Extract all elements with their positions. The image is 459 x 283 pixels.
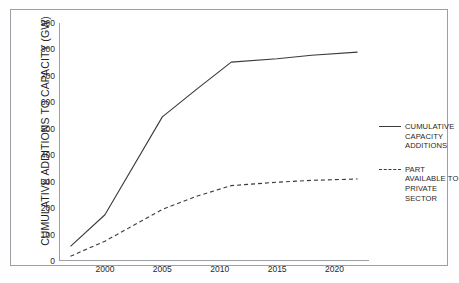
chart-figure: CUMULATIVE ADDITIONS TO CAPACITY (GW) 01… [0, 0, 459, 283]
y-tick-label: 300 [41, 178, 55, 186]
plot-svg [59, 23, 369, 261]
legend-item: CUMULATIVE CAPACITY ADDITIONS [379, 122, 459, 151]
plot-area [59, 23, 369, 261]
y-tick-label: 400 [41, 151, 55, 159]
y-tick-label: 800 [41, 45, 55, 53]
y-tick-label: 900 [41, 19, 55, 27]
y-tick-label: 100 [41, 231, 55, 239]
legend-solid-line-icon [379, 126, 401, 127]
chart-frame: CUMULATIVE ADDITIONS TO CAPACITY (GW) 01… [10, 9, 448, 266]
x-axis-tick-labels: 20002005201020152020 [59, 262, 369, 278]
y-tick-label: 600 [41, 98, 55, 106]
legend-item: PART AVAILABLE TO PRIVATE SECTOR [379, 165, 459, 203]
series-line-part-available-to-private-sector [70, 179, 357, 256]
legend-item-label: PART AVAILABLE TO PRIVATE SECTOR [405, 165, 459, 203]
y-tick-label: 0 [50, 257, 55, 265]
legend-item-label: CUMULATIVE CAPACITY ADDITIONS [405, 122, 459, 151]
x-tick-label: 2015 [268, 264, 287, 274]
y-tick-label: 200 [41, 204, 55, 212]
y-tick-label: 500 [41, 125, 55, 133]
series-line-cumulative-capacity-additions [70, 52, 357, 246]
y-tick-label: 700 [41, 72, 55, 80]
x-tick-label: 2010 [210, 264, 229, 274]
x-tick-label: 2005 [153, 264, 172, 274]
y-axis-tick-labels: 0100200300400500600700800900 [29, 23, 55, 261]
legend-dashed-line-icon [379, 169, 401, 170]
x-tick-label: 2000 [95, 264, 114, 274]
chart-legend: CUMULATIVE CAPACITY ADDITIONSPART AVAILA… [379, 122, 459, 217]
x-tick-label: 2020 [325, 264, 344, 274]
